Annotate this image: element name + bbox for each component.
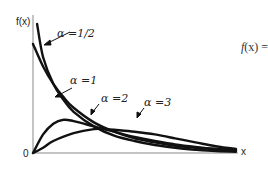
annotation-alpha-half: α =1/2 [57, 28, 95, 39]
y-axis-label: f(x) [16, 17, 30, 27]
formula-rest: (x) = [244, 40, 268, 54]
annotation-alpha-three: α =3 [144, 97, 171, 108]
formula-fragment: f(x) = [241, 40, 268, 55]
annotation-alpha-one: α =1 [70, 75, 97, 86]
annotation-alpha-two: α =2 [101, 93, 128, 104]
gamma-density-chart [0, 0, 268, 178]
origin-label: 0 [23, 149, 29, 159]
curve-alpha-1 [33, 44, 236, 150]
x-axis-label: x [241, 147, 246, 157]
